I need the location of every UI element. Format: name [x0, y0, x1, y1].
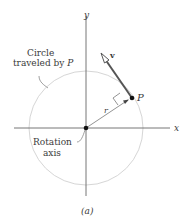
rotation-label-line1: Rotation [33, 137, 72, 147]
point-p-label: P [136, 92, 144, 103]
radius-label: r [104, 106, 109, 115]
velocity-label: v [109, 50, 115, 60]
rotation-axis-dot [84, 126, 89, 131]
rotation-diagram: y x Circle traveled by P Rotation axis P… [0, 0, 190, 223]
rotation-label-line2: axis [43, 148, 61, 158]
x-axis-label: x [174, 123, 179, 133]
figure-caption: (a) [81, 206, 94, 216]
circle-label-line2: traveled by P [13, 58, 74, 68]
point-p [130, 96, 135, 101]
rotation-leader [77, 130, 85, 142]
circle-label-line1: Circle [27, 48, 54, 58]
radius-arrowhead [123, 100, 129, 105]
y-axis-label: y [83, 10, 90, 20]
right-angle-marker [113, 93, 120, 105]
velocity-vector [105, 59, 132, 98]
